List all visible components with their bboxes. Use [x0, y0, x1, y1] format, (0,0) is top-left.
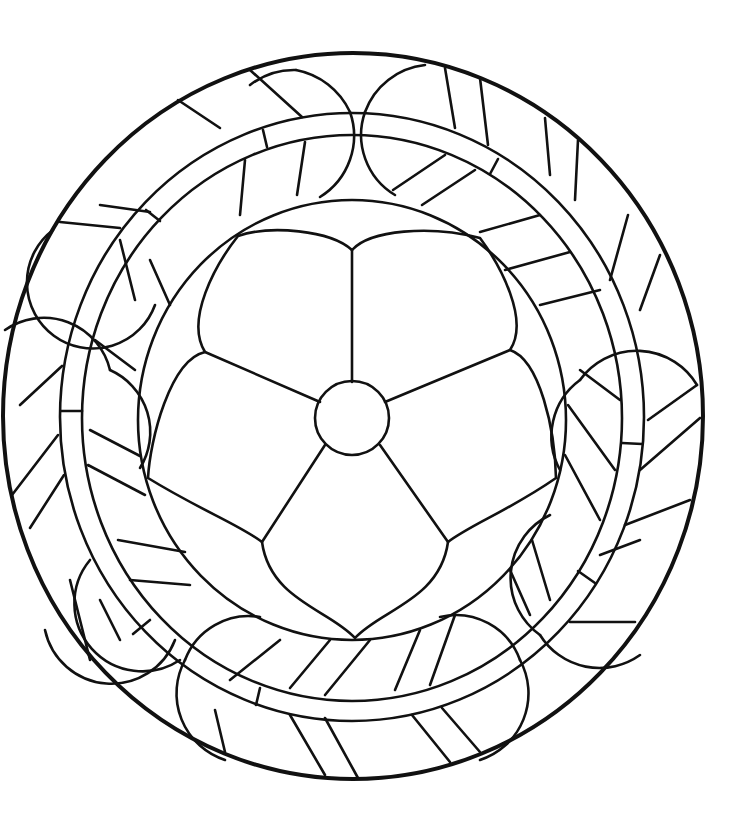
petal-right [380, 350, 556, 542]
band-divider [622, 443, 642, 444]
hatch-line [600, 540, 640, 555]
hatch-line [640, 418, 700, 470]
band-divider [256, 688, 260, 705]
hatch-line [532, 540, 550, 600]
hatch-line [130, 580, 190, 585]
lobe-bottom-left [185, 616, 260, 660]
hatch-line [178, 100, 220, 128]
hatch-line [100, 600, 120, 640]
hatch-line [150, 260, 170, 305]
inner-hatching [88, 142, 620, 695]
hatch-line [230, 640, 280, 680]
petal-top-right [352, 231, 517, 402]
hatch-line [575, 140, 578, 200]
hatch-line [540, 290, 600, 305]
hatch-line [12, 435, 58, 495]
hatch-line [60, 222, 120, 228]
band-divider [578, 571, 595, 583]
hatch-line [545, 118, 550, 175]
hatch-line [505, 252, 570, 270]
petal-left [148, 352, 325, 542]
hatch-line [412, 715, 450, 762]
hatch-line [290, 715, 325, 775]
hatch-line [430, 615, 455, 685]
lobes [5, 65, 697, 760]
lobe-top-left-arc [296, 70, 350, 112]
hatch-line [580, 370, 620, 400]
hatch-line [445, 68, 455, 128]
hatch-line [240, 160, 245, 215]
petal-top-left [198, 230, 352, 402]
band-divider [263, 130, 267, 147]
lobe-left [5, 318, 110, 370]
hatch-line [648, 385, 697, 420]
stained-glass-pattern: Circular stained glass pattern with five… [0, 0, 735, 834]
hatch-line [442, 708, 480, 752]
hatch-line [480, 78, 488, 145]
hatch-line [480, 215, 540, 232]
hatch-line [215, 710, 225, 752]
hatch-line [625, 500, 690, 525]
lobe-bottom-left-b [177, 660, 225, 760]
hatching [12, 68, 700, 778]
hatch-line [325, 640, 370, 695]
flower [148, 230, 556, 638]
hatch-line [640, 255, 660, 310]
hatch-line [30, 475, 64, 528]
pattern-drawing [0, 0, 735, 834]
hatch-line [88, 465, 145, 495]
hatch-line [395, 630, 420, 690]
hatch-line [90, 430, 140, 456]
hatch-line [393, 155, 445, 190]
hatch-line [297, 142, 305, 195]
petal-bottom [262, 542, 448, 638]
lobe-left-lower [110, 370, 150, 468]
lobe-top-right-arc2 [361, 112, 395, 195]
hatch-line [290, 640, 330, 688]
lobe-lower-right-b [540, 635, 640, 668]
band-inner-ring [82, 135, 622, 701]
flower-center [315, 381, 389, 455]
hatch-line [422, 170, 475, 205]
band-divider [490, 159, 498, 174]
hatch-line [565, 455, 600, 520]
hatch-line [250, 70, 302, 117]
hatch-line [70, 580, 90, 660]
hatch-line [20, 366, 62, 405]
hatch-line [610, 215, 628, 280]
hatch-line [325, 718, 358, 778]
lobe-top-right-arc [365, 65, 425, 112]
lobe-top-left-arc2 [320, 112, 354, 197]
outer-circle [3, 53, 703, 779]
hatch-line [568, 405, 615, 470]
